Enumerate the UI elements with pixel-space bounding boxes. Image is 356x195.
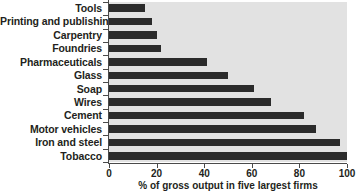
category-label: Glass (0, 69, 106, 81)
category-label: Carpentry (0, 29, 106, 41)
bar-row (109, 109, 347, 121)
y-axis-tick (103, 2, 108, 3)
x-axis-tick-label: 80 (294, 168, 305, 179)
bar (109, 125, 316, 133)
category-label: Pharmaceuticals (0, 56, 106, 68)
bar-row (109, 56, 347, 68)
y-axis-tick (103, 29, 108, 30)
bar-row (109, 136, 347, 148)
x-axis-tick-label: 40 (199, 168, 210, 179)
category-label: Foundries (0, 42, 106, 54)
category-label: Printing and publishing (0, 15, 106, 27)
y-axis-tick (103, 149, 108, 150)
x-axis-tick-label: 20 (151, 168, 162, 179)
y-axis-tick (103, 162, 108, 163)
category-label: Tobacco (0, 150, 106, 162)
bar (109, 85, 254, 93)
bar (109, 72, 228, 80)
x-axis-tick-label: 60 (246, 168, 257, 179)
y-axis-tick (103, 82, 108, 83)
bar-chart: Tools Printing and publishing Carpentry … (0, 0, 356, 195)
bar-row (109, 15, 347, 27)
bar-row (109, 69, 347, 81)
y-axis-tick (103, 42, 108, 43)
category-label: Soap (0, 83, 106, 95)
bar-series (109, 2, 347, 162)
bar (109, 45, 161, 53)
y-axis-line (108, 0, 109, 164)
bar (109, 152, 347, 160)
category-label: Tools (0, 2, 106, 14)
plot-area (109, 2, 347, 162)
bar-row (109, 96, 347, 108)
category-axis-labels: Tools Printing and publishing Carpentry … (0, 2, 106, 162)
y-axis-tick (103, 55, 108, 56)
y-axis-tick (103, 109, 108, 110)
bar-row (109, 29, 347, 41)
y-axis-tick (103, 15, 108, 16)
category-label: Motor vehicles (0, 123, 106, 135)
bar-row (109, 123, 347, 135)
bar-row (109, 42, 347, 54)
category-label: Wires (0, 96, 106, 108)
bar-row (109, 2, 347, 14)
y-axis-tick (103, 122, 108, 123)
x-axis-title: % of gross output in five largest firms (109, 180, 347, 191)
bar (109, 4, 145, 12)
y-axis-tick (103, 69, 108, 70)
y-axis-tick (103, 95, 108, 96)
x-axis-line (108, 163, 347, 164)
bar (109, 139, 340, 147)
x-axis-tick-label: 0 (106, 168, 112, 179)
bar (109, 112, 304, 120)
category-label: Iron and steel (0, 136, 106, 148)
bar (109, 58, 207, 66)
bar-row (109, 150, 347, 162)
bar-row (109, 83, 347, 95)
bar (109, 31, 157, 39)
bar (109, 18, 152, 26)
y-axis-tick (103, 135, 108, 136)
x-axis-tick-label: 100 (339, 168, 356, 179)
bar (109, 98, 271, 106)
category-label: Cement (0, 109, 106, 121)
